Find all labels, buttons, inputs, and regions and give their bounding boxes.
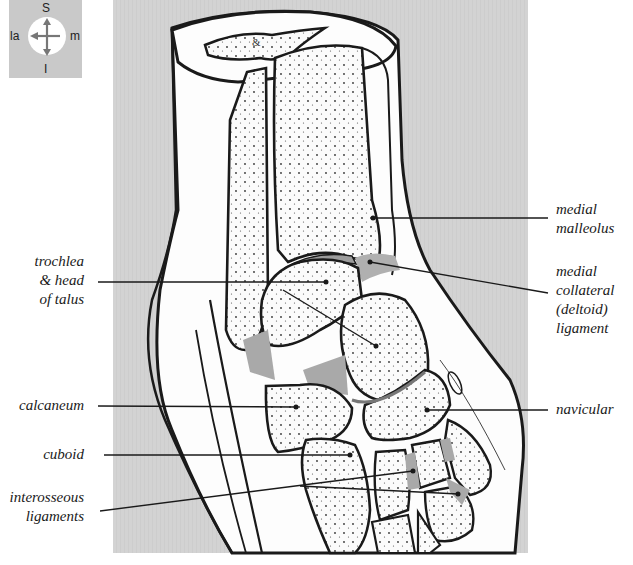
label-line: & head [35,271,84,290]
ankle-section-illustration: & [0,0,633,565]
label-navicular: navicular [556,400,614,419]
label-line: of talus [35,290,84,309]
label-line: navicular [556,400,614,419]
label-line: calcaneum [19,396,84,415]
label-line: cuboid [43,445,84,464]
label-line: ligaments [10,507,84,526]
label-line: interosseous [10,488,84,507]
label-line: collateral [556,281,614,300]
label-calcaneum: calcaneum [19,396,84,415]
label-medial-collateral-ligament: medial collateral (deltoid) ligament [556,262,614,338]
label-cuboid: cuboid [43,445,84,464]
label-interosseous-ligaments: interosseous ligaments [10,488,84,526]
anatomy-figure: S I la m & [0,0,633,565]
label-line: medial [556,200,614,219]
label-line: medial [556,262,614,281]
svg-text:&: & [252,36,261,48]
label-trochlea-head-of-talus: trochlea & head of talus [35,252,84,309]
label-line: ligament [556,319,614,338]
label-line: trochlea [35,252,84,271]
label-line: malleolus [556,219,614,238]
label-line: (deltoid) [556,300,614,319]
label-medial-malleolus: medial malleolus [556,200,614,238]
